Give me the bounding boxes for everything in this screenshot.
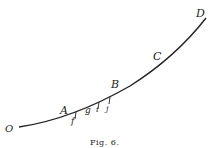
point-label-g: g [85,105,91,115]
point-label-a: A [59,104,68,117]
figure-caption: Fig. 6. [90,138,119,147]
point-label-j: j [104,104,109,113]
figure-canvas: O A f g i j B C D Fig. 6. [0,0,218,148]
curve-o-to-d [19,18,206,127]
point-label-b: B [110,78,119,91]
point-label-o: O [5,123,13,134]
tick-j [109,97,110,104]
point-label-c: C [153,50,162,63]
tick-f [75,112,76,119]
point-label-d: D [195,7,205,20]
point-label-i: i [96,105,99,114]
